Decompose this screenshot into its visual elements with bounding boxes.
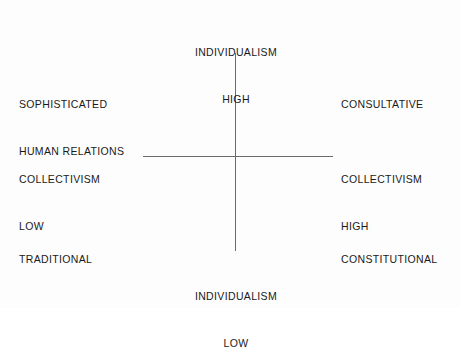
axis-label-collectivism-high-line1: COLLECTIVISM xyxy=(341,172,422,188)
quadrant-label-top-left-line1: SOPHISTICATED xyxy=(19,97,124,113)
axis-label-individualism-high: INDIVIDUALISM HIGH xyxy=(195,14,277,138)
quadrant-label-bottom-left-line1: TRADITIONAL xyxy=(19,252,92,268)
quadrant-label-bottom-right-line1: CONSTITUTIONAL xyxy=(341,252,438,268)
quadrant-label-top-right: CONSULTATIVE xyxy=(341,66,423,144)
axis-label-individualism-low: INDIVIDUALISM LOW xyxy=(195,258,277,351)
axis-label-individualism-high-line1: INDIVIDUALISM xyxy=(195,45,277,61)
quadrant-label-top-right-line1: CONSULTATIVE xyxy=(341,97,423,113)
quadrant-label-bottom-right: CONSTITUTIONAL xyxy=(341,221,438,299)
quadrant-label-top-left: SOPHISTICATED HUMAN RELATIONS xyxy=(19,66,124,190)
quadrant-label-bottom-left: TRADITIONAL xyxy=(19,221,92,299)
axis-label-individualism-high-line2: HIGH xyxy=(195,92,277,108)
horizontal-axis-line xyxy=(143,156,333,157)
axis-label-individualism-low-line1: INDIVIDUALISM xyxy=(195,289,277,305)
quadrant-label-top-left-line2: HUMAN RELATIONS xyxy=(19,144,124,160)
axis-label-individualism-low-line2: LOW xyxy=(195,336,277,351)
